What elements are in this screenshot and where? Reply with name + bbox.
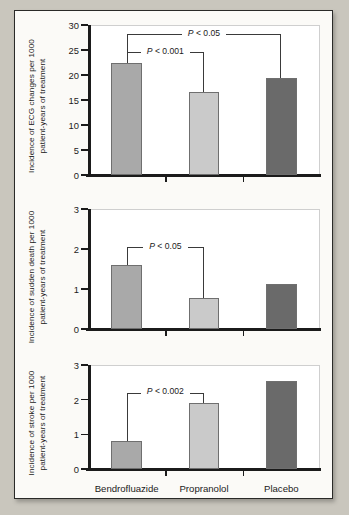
significance-bracket: P < 0.001: [127, 52, 204, 92]
y-axis-tick: [81, 434, 88, 435]
y-axis-tick: [81, 74, 88, 75]
plot-frame-right: [319, 209, 320, 329]
y-axis-tick-label: 3: [74, 204, 79, 215]
y-axis-tick: [81, 328, 88, 329]
y-axis-tick-label: 25: [69, 45, 79, 56]
y-axis-tick-label: 30: [69, 20, 79, 31]
category-separator-tick: [243, 329, 244, 336]
y-axis-tick-label: 5: [74, 145, 79, 156]
y-axis-tick: [81, 208, 88, 209]
category-label-propranolol: Propranolol: [165, 483, 242, 494]
bar-propranolol: [189, 298, 220, 329]
y-axis-tick: [81, 174, 88, 175]
chart-panel-stroke: Incidence of stroke per 1000 patient-yea…: [15, 357, 334, 494]
y-axis-tick-label: 1: [74, 429, 79, 440]
chart-panel-ecg-changes: Incidence of ECG changes per 1000 patien…: [15, 19, 334, 201]
y-axis-line: [88, 209, 91, 329]
y-axis-tick-label: 2: [74, 394, 79, 405]
plot-frame-right: [319, 365, 320, 469]
p-value-label: P < 0.05: [127, 28, 282, 38]
y-axis-tick-label: 2: [74, 244, 79, 255]
bracket-leg-right: [203, 52, 204, 92]
bracket-leg-right: [280, 34, 281, 78]
category-axis-labels: BendrofluazidePropranololPlacebo: [88, 483, 320, 494]
plot-frame-top: [88, 25, 320, 26]
p-value-label: P < 0.05: [127, 241, 204, 251]
category-separator-tick: [165, 329, 166, 336]
significance-bracket: P < 0.002: [127, 393, 204, 442]
category-separator-tick: [243, 175, 244, 182]
y-axis-tick: [81, 288, 88, 289]
y-axis-line: [88, 365, 91, 469]
plot-area: 0123P < 0.002: [88, 365, 320, 469]
plot-frame-right: [319, 25, 320, 175]
plot-frame-top: [88, 209, 320, 210]
y-axis-tick: [81, 49, 88, 50]
bar-bendrofluazide: [111, 441, 142, 469]
y-axis-tick: [81, 399, 88, 400]
y-axis-tick: [81, 24, 88, 25]
bar-propranolol: [189, 92, 220, 175]
bar-placebo: [266, 78, 297, 176]
bar-placebo: [266, 381, 297, 469]
bracket-leg-left: [127, 393, 128, 442]
y-axis-line: [88, 25, 91, 175]
y-axis-tick: [81, 468, 88, 469]
category-separator-tick: [165, 469, 166, 476]
y-axis-tick-label: 3: [74, 360, 79, 371]
y-axis-tick: [81, 124, 88, 125]
figure-frame: Incidence of ECG changes per 1000 patien…: [14, 10, 333, 499]
category-label-placebo: Placebo: [243, 483, 320, 494]
bar-placebo: [266, 284, 297, 329]
significance-bracket: P < 0.05: [127, 247, 204, 298]
y-axis-tick-label: 0: [74, 170, 79, 181]
plot-frame-top: [88, 365, 320, 366]
y-axis-tick-label: 0: [74, 464, 79, 475]
category-separator-tick: [165, 175, 166, 182]
chart-panel-sudden-death: Incidence of sudden death per 1000 patie…: [15, 201, 334, 357]
plot-area: 051015202530P < 0.05P < 0.001: [88, 25, 320, 175]
p-value-label: P < 0.001: [127, 46, 204, 56]
y-axis-title: Incidence of ECG changes per 1000 patien…: [27, 27, 48, 185]
y-axis-tick-label: 20: [69, 70, 79, 81]
category-separator-tick: [243, 469, 244, 476]
y-axis-tick-label: 0: [74, 324, 79, 335]
y-axis-tick-label: 15: [69, 95, 79, 106]
bracket-leg-right: [203, 247, 204, 298]
p-value-label: P < 0.002: [127, 386, 204, 396]
y-axis-tick-label: 1: [74, 284, 79, 295]
y-axis-tick-label: 10: [69, 120, 79, 131]
category-label-bendrofluazide: Bendrofluazide: [88, 483, 165, 494]
y-axis-tick: [81, 149, 88, 150]
plot-area: 0123P < 0.05: [88, 209, 320, 329]
y-axis-title: Incidence of sudden death per 1000 patie…: [27, 207, 48, 347]
y-axis-tick: [81, 364, 88, 365]
y-axis-title: Incidence of stroke per 1000 patient-yea…: [27, 361, 48, 485]
y-axis-tick: [81, 99, 88, 100]
y-axis-tick: [81, 248, 88, 249]
